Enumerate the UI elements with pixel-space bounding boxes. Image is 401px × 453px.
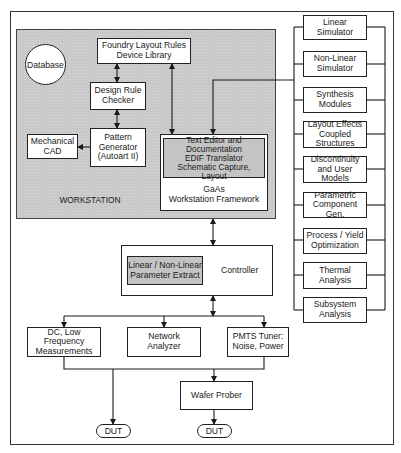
controller-box: Linear / Non-Linear Parameter Extract Co… [121, 245, 273, 296]
network-analyzer-box: Network Analyzer [127, 327, 201, 357]
framework-tools-box: Text Editor and Documentation EDIF Trans… [163, 138, 265, 178]
database-label: Database [27, 60, 64, 70]
module-discontinuity: Discontinuity and User Models [303, 156, 367, 183]
module-synthesis: Synthesis Modules [303, 87, 367, 113]
module-subsystem-analysis: Subsystem Analysis [303, 297, 367, 323]
dut-left: DUT [96, 424, 131, 438]
module-linear-simulator: Linear Simulator [303, 15, 367, 40]
parameter-extract-box: Linear / Non-Linear Parameter Extract [127, 256, 203, 285]
pmts-tuner-box: PMTS Tuner: Noise, Power [227, 327, 289, 357]
gaas-framework-box: Text Editor and Documentation EDIF Trans… [160, 134, 268, 211]
wafer-prober-box: Wafer Prober [180, 381, 253, 410]
foundry-library-box: Foundry Layout Rules Device Library [97, 38, 191, 64]
module-process-yield: Process / Yield Optimization [303, 228, 367, 254]
module-parametric-component: Parametric Component Gen. [303, 192, 367, 218]
module-layout-effects: Layout Effects Coupled Structures [303, 121, 367, 148]
dc-measurements-box: DC, Low Frequency Measurements [27, 327, 101, 357]
dut-right: DUT [197, 424, 232, 438]
mechanical-cad-box: Mechanical CAD [27, 134, 78, 159]
pattern-generator-box: Pattern Generator (Autoart II) [90, 128, 146, 167]
controller-label: Controller [221, 266, 258, 276]
framework-label: GaAs Workstation Framework [169, 185, 260, 204]
database-node: Database [25, 44, 66, 85]
module-nonlinear-simulator: Non-Linear Simulator [303, 51, 367, 77]
design-rule-checker-box: Design Rule Checker [90, 82, 146, 110]
module-thermal-analysis: Thermal Analysis [303, 262, 367, 289]
workstation-label: WORKSTATION [55, 196, 125, 206]
